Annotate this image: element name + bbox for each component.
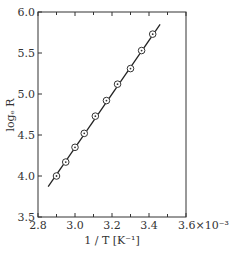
data-point — [92, 113, 99, 120]
x-axis-ticks: 2.83.03.23.43.6×10⁻³ — [29, 12, 229, 232]
data-point — [62, 159, 69, 166]
x-axis-label: 1 / T [K⁻¹] — [84, 234, 140, 247]
y-tick-label: 4.0 — [18, 170, 36, 183]
x-tick-label: 3.2 — [103, 219, 121, 232]
y-tick-label: 5.0 — [18, 88, 36, 101]
data-point — [114, 81, 121, 88]
x-tick-label: 3.6×10⁻³ — [178, 219, 229, 232]
data-point — [53, 173, 60, 180]
y-tick-label: 6.0 — [18, 6, 36, 19]
data-point — [149, 31, 156, 38]
y-tick-label: 3.5 — [18, 211, 36, 224]
chart: 2.83.03.23.43.6×10⁻³ 3.54.04.55.05.56.0 … — [0, 0, 231, 255]
x-tick-label: 3.4 — [140, 219, 158, 232]
plot-frame — [38, 12, 186, 217]
data-point — [127, 65, 134, 72]
data-point — [81, 130, 88, 137]
data-point — [138, 47, 145, 54]
y-axis-label: logₑ R — [4, 98, 17, 132]
y-tick-label: 4.5 — [18, 129, 36, 142]
x-tick-label: 3.0 — [66, 219, 84, 232]
y-tick-label: 5.5 — [18, 47, 36, 60]
data-point — [103, 97, 110, 104]
data-point — [72, 144, 79, 151]
